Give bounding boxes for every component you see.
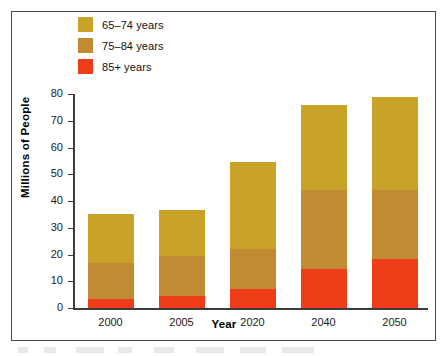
legend-swatch-75-84-icon xyxy=(78,38,93,53)
bar-segment xyxy=(88,214,134,262)
figure-container: 65–74 years 75–84 years 85+ years 010203… xyxy=(0,0,448,356)
y-tick-mark xyxy=(68,308,73,309)
y-tick-label: 0 xyxy=(31,300,63,315)
bar-segment xyxy=(230,249,276,289)
bar-segment xyxy=(372,190,418,258)
bar-2020 xyxy=(230,162,276,308)
bar-segment xyxy=(159,210,205,255)
y-tick-mark xyxy=(68,255,73,256)
y-tick-mark xyxy=(68,94,73,95)
legend-item-75-84: 75–84 years xyxy=(78,35,218,56)
y-tick-mark xyxy=(68,228,73,229)
bar-segment xyxy=(159,256,205,296)
legend-swatch-85-plus-icon xyxy=(78,59,93,74)
bar-segment xyxy=(88,299,134,308)
x-axis-title: Year xyxy=(0,318,448,330)
y-tick-mark xyxy=(68,174,73,175)
y-tick-label: 10 xyxy=(31,273,63,288)
y-axis-title: Millions of People xyxy=(19,97,31,198)
x-axis-line xyxy=(73,308,428,310)
y-tick-label: 30 xyxy=(31,220,63,235)
bar-2005 xyxy=(159,210,205,308)
bar-2050 xyxy=(372,97,418,308)
bar-segment xyxy=(301,105,347,191)
bar-segment xyxy=(301,269,347,308)
y-tick-mark xyxy=(68,201,73,202)
y-tick-label: 80 xyxy=(31,86,63,101)
y-tick-mark xyxy=(68,121,73,122)
bar-segment xyxy=(372,97,418,191)
y-axis-line xyxy=(73,94,75,308)
bar-segment xyxy=(230,289,276,308)
legend-swatch-65-74-icon xyxy=(78,17,93,32)
legend-label-65-74: 65–74 years xyxy=(102,19,164,31)
legend-label-85-plus: 85+ years xyxy=(102,61,152,73)
y-tick-label: 20 xyxy=(31,247,63,262)
bar-segment xyxy=(372,259,418,308)
legend-item-65-74: 65–74 years xyxy=(78,14,218,35)
page-footer-cutoff-text xyxy=(14,347,314,353)
y-tick-label: 50 xyxy=(31,166,63,181)
y-tick-mark xyxy=(68,281,73,282)
y-tick-label: 40 xyxy=(31,193,63,208)
bar-2040 xyxy=(301,105,347,308)
bar-segment xyxy=(230,162,276,249)
y-tick-label: 60 xyxy=(31,140,63,155)
plot-area: 01020304050607080 20002005202020402050 xyxy=(73,88,428,308)
y-tick-label: 70 xyxy=(31,113,63,128)
legend-item-85-plus: 85+ years xyxy=(78,56,218,77)
chart-legend: 65–74 years 75–84 years 85+ years xyxy=(78,14,218,77)
y-tick-mark xyxy=(68,148,73,149)
bar-segment xyxy=(159,296,205,308)
bar-segment xyxy=(88,263,134,299)
bar-segment xyxy=(301,190,347,269)
bar-2000 xyxy=(88,214,134,308)
legend-label-75-84: 75–84 years xyxy=(102,40,164,52)
